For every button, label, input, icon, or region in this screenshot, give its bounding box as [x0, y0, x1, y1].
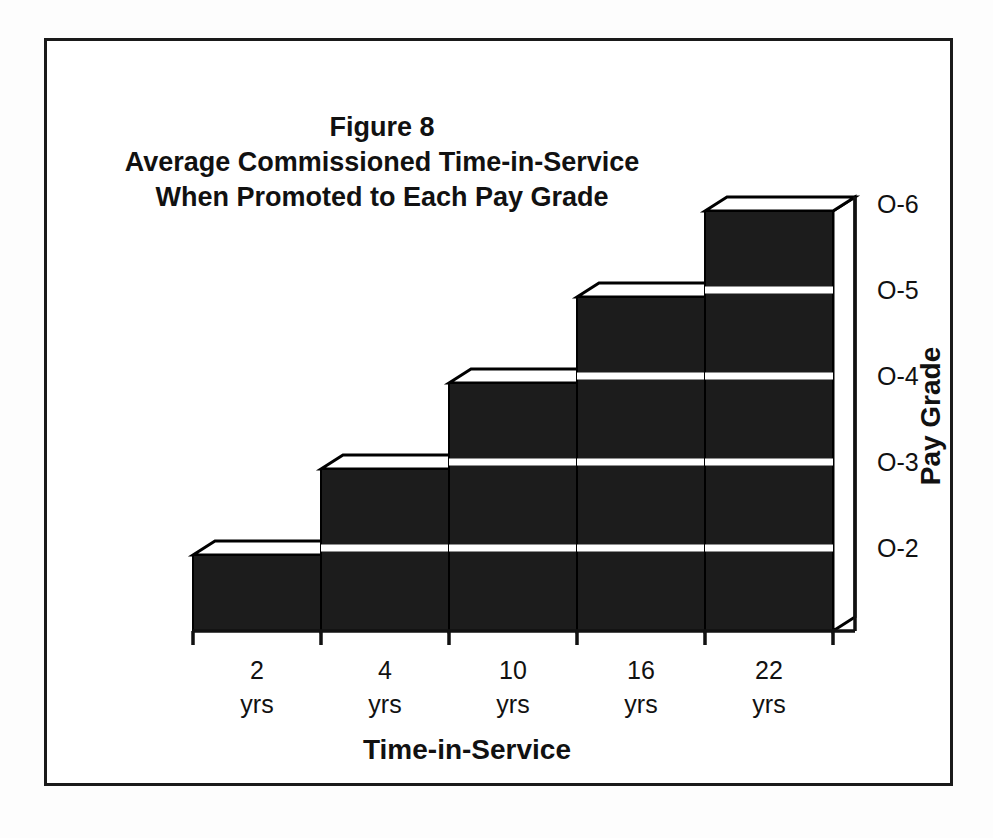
x-axis-tick-labels: 2 yrs 4 yrs 10 yrs 16 yrs 22 yrs: [240, 656, 785, 718]
figure-root: Figure 8 Average Commissioned Time-in-Se…: [0, 0, 993, 838]
x-tick-label-number-2: 10: [499, 656, 527, 684]
y-tick-label-o5: O-5: [877, 276, 919, 304]
x-tick-label-unit-4: yrs: [752, 690, 785, 718]
bar-top-face-22-yrs: [705, 197, 855, 211]
bar-front-face-22-yrs: [705, 211, 833, 631]
y-tick-label-o3: O-3: [877, 448, 919, 476]
x-tick-label-number-1: 4: [378, 656, 392, 684]
x-tick-label-unit-3: yrs: [624, 690, 657, 718]
x-tick-label-number-0: 2: [250, 656, 264, 684]
title-line-figure-number: Figure 8: [329, 112, 434, 142]
y-tick-label-o4: O-4: [877, 362, 919, 390]
bar-front-face-10-yrs: [449, 383, 577, 631]
chart-title-block: Figure 8 Average Commissioned Time-in-Se…: [125, 112, 640, 212]
bar-group-22-yrs[interactable]: [705, 197, 855, 631]
x-tick-label-unit-1: yrs: [368, 690, 401, 718]
y-tick-label-o2: O-2: [877, 534, 919, 562]
bar-front-face-2-yrs: [193, 555, 321, 631]
x-tick-label-number-4: 22: [755, 656, 783, 684]
x-axis-title: Time-in-Service: [363, 734, 571, 765]
x-tick-label-number-3: 16: [627, 656, 655, 684]
figure-border-frame: Figure 8 Average Commissioned Time-in-Se…: [44, 38, 953, 786]
bar-side-face-22-yrs: [833, 197, 855, 631]
x-tick-label-unit-0: yrs: [240, 690, 273, 718]
x-tick-label-unit-2: yrs: [496, 690, 529, 718]
y-axis-title: Pay Grade: [915, 347, 946, 486]
title-line-main: Average Commissioned Time-in-Service: [125, 147, 640, 177]
title-line-subtitle: When Promoted to Each Pay Grade: [155, 182, 608, 212]
y-tick-label-o6: O-6: [877, 190, 919, 218]
x-axis-tick-marks: [193, 631, 833, 645]
y-axis-tick-labels: O-6 O-5 O-4 O-3 O-2: [877, 190, 919, 562]
bar-chart-canvas: Figure 8 Average Commissioned Time-in-Se…: [47, 41, 950, 783]
